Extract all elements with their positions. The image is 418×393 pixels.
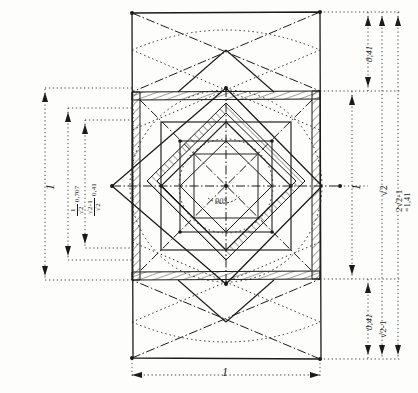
right-total-value-label: =1,41 <box>404 192 412 212</box>
fraction-denominator: √2 <box>95 198 102 216</box>
fraction-1-root2: 1 √2 <box>70 204 85 216</box>
fraction-root2minus1-root2: √2-1 √2 <box>87 198 102 216</box>
right-bottom-gap-label: 0,41 <box>365 313 374 330</box>
left-fraction-one-over-root2: 1 √2 0,707 <box>70 186 85 217</box>
geometry-drawing <box>0 0 418 393</box>
right-middle-span-label: 1 <box>350 184 362 190</box>
left-span-label: 1 <box>44 184 56 190</box>
right-top-gap-label: 0,41 <box>365 45 374 62</box>
fraction-denominator: √2 <box>78 204 85 216</box>
right-root2-label: √2 <box>379 185 389 196</box>
fraction-value-1: 0,707 <box>74 186 81 205</box>
left-fraction-root2minus1-over-root2: √2-1 √2 0,41 <box>87 183 102 216</box>
right-root2-minus-1-label: √2-1 <box>379 320 388 338</box>
fraction-value-2: 0,41 <box>91 183 98 198</box>
figure-canvas: 90° 1 1 1 √2 0,707 √2-1 √2 0,41 0,41 1 0… <box>0 0 418 393</box>
angle-label: 90° <box>215 198 227 206</box>
bottom-dimension-label: 1 <box>222 366 228 378</box>
